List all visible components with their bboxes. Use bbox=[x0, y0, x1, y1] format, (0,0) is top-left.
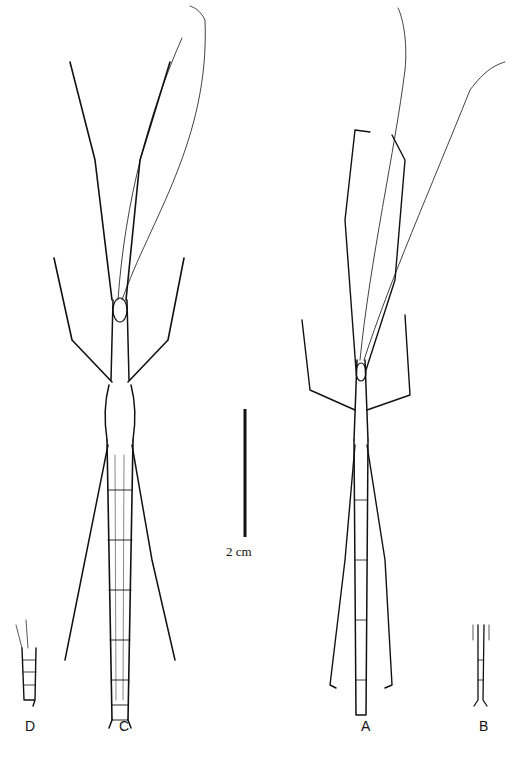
specimen-c-drawing bbox=[54, 6, 205, 728]
specimen-b-drawing bbox=[473, 625, 489, 706]
label-a: A bbox=[361, 718, 370, 734]
label-b: B bbox=[479, 718, 488, 734]
stick-insect-figure: 2 cm D C A B bbox=[0, 0, 515, 757]
scale-bar-label: 2 cm bbox=[226, 544, 252, 560]
specimen-a-drawing bbox=[302, 8, 505, 715]
specimen-d-drawing bbox=[16, 620, 36, 706]
line-drawing bbox=[0, 0, 515, 757]
label-c: C bbox=[119, 718, 129, 734]
label-d: D bbox=[25, 718, 35, 734]
